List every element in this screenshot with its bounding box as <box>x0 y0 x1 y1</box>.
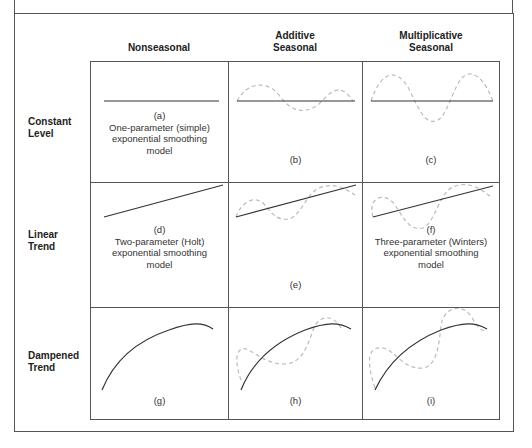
cell-description: model <box>91 145 228 157</box>
cell-c-constant-multiplicative: (c) <box>362 61 500 183</box>
frame-top-left-edge <box>14 0 15 13</box>
column-header-additive-seasonal: Additive Seasonal <box>228 30 362 54</box>
cell-description: exponential smoothing <box>91 247 228 259</box>
column-header-nonseasonal: Nonseasonal <box>90 42 228 54</box>
cell-i-dampened-multiplicative: (i) <box>362 307 500 420</box>
column-header-multiplicative-seasonal: Multiplicative Seasonal <box>362 30 500 54</box>
row-header-constant-level: Constant Level <box>28 116 71 140</box>
cell-letter: (b) <box>229 154 362 166</box>
cell-d-linear-nonseasonal: (d) Two-parameter (Holt) exponential smo… <box>90 182 229 308</box>
cell-letter: (g) <box>91 395 228 407</box>
cell-description: exponential smoothing <box>363 247 499 259</box>
cell-b-constant-additive: (b) <box>228 61 363 183</box>
row-header-text: Trend <box>28 362 79 374</box>
row-header-text: Constant <box>28 116 71 128</box>
cell-description: exponential smoothing <box>91 133 228 145</box>
cell-h-dampened-additive: (h) <box>228 307 363 420</box>
cell-letter: (d) <box>91 224 228 236</box>
column-header-text: Multiplicative <box>362 30 500 42</box>
cell-letter: (h) <box>229 395 362 407</box>
column-header-text: Additive <box>228 30 362 42</box>
column-header-text: Nonseasonal <box>128 42 190 53</box>
cell-letter: (i) <box>363 395 499 407</box>
row-header-text: Level <box>28 128 71 140</box>
row-header-dampened-trend: Dampened Trend <box>28 350 79 374</box>
cell-a-constant-nonseasonal: (a) One-parameter (simple) exponential s… <box>90 61 229 183</box>
cell-description: One-parameter (simple) <box>91 122 228 134</box>
cell-letter: (c) <box>363 154 499 166</box>
cell-description: Three-parameter (Winters) <box>363 236 499 248</box>
cell-description: model <box>363 259 499 271</box>
cell-f-linear-multiplicative: (f) Three-parameter (Winters) exponentia… <box>362 182 500 308</box>
cell-letter: (a) <box>91 110 228 122</box>
row-header-text: Dampened <box>28 350 79 362</box>
cell-letter: (e) <box>229 279 362 291</box>
cell-e-linear-additive: (e) <box>228 182 363 308</box>
cell-description: Two-parameter (Holt) <box>91 236 228 248</box>
row-header-text: Trend <box>28 241 58 253</box>
row-header-text: Linear <box>28 229 58 241</box>
cell-letter: (f) <box>363 224 499 236</box>
cell-description: model <box>91 259 228 271</box>
cell-g-dampened-nonseasonal: (g) <box>90 307 229 420</box>
row-header-linear-trend: Linear Trend <box>28 229 58 253</box>
model-grid: (a) One-parameter (simple) exponential s… <box>90 61 500 420</box>
column-header-text: Seasonal <box>228 42 362 54</box>
frame-top-right-edge <box>512 0 513 13</box>
column-header-text: Seasonal <box>362 42 500 54</box>
